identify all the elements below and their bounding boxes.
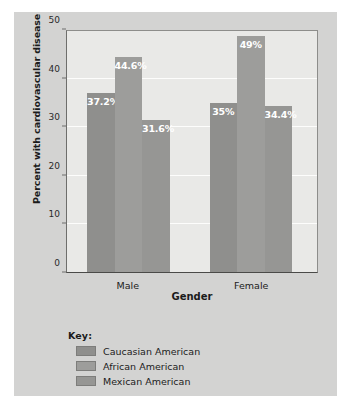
- y-tick-mark: [62, 272, 66, 273]
- bar-chart: Percent with cardiovascular disease Gend…: [14, 12, 337, 302]
- plot-outer: 37.2%44.6%31.6%35%49%34.4% 01020304050 M…: [66, 30, 318, 273]
- x-axis-title: Gender: [66, 291, 318, 302]
- y-tick-mark: [62, 223, 66, 224]
- bars-layer: 37.2%44.6%31.6%35%49%34.4%: [67, 31, 317, 272]
- y-tick-label: 10: [20, 209, 60, 219]
- legend-label: African American: [103, 361, 184, 372]
- legend-swatch: [76, 376, 96, 386]
- y-tick-label: 40: [20, 64, 60, 74]
- x-tick-label: Male: [116, 280, 139, 291]
- legend-entries: Caucasian AmericanAfrican AmericanMexica…: [68, 344, 288, 388]
- legend: Key: Caucasian AmericanAfrican AmericanM…: [68, 330, 288, 389]
- bar-value-label: 31.6%: [142, 123, 170, 134]
- bar: 35%: [210, 103, 238, 272]
- legend-label: Caucasian American: [103, 346, 200, 357]
- y-tick-mark: [62, 77, 66, 78]
- y-tick-mark: [62, 29, 66, 30]
- bar-value-label: 35%: [210, 106, 238, 117]
- x-tick-label: Female: [234, 280, 268, 291]
- legend-label: Mexican American: [103, 376, 190, 387]
- legend-title: Key:: [68, 330, 288, 341]
- y-tick-label: 20: [20, 161, 60, 171]
- legend-entry: Caucasian American: [68, 344, 288, 358]
- y-tick-label: 0: [20, 258, 60, 268]
- bar: 37.2%: [87, 93, 115, 272]
- legend-entry: African American: [68, 359, 288, 373]
- y-tick-label: 50: [20, 15, 60, 25]
- y-tick-label: 30: [20, 112, 60, 122]
- bar-value-label: 49%: [237, 39, 265, 50]
- bar-value-label: 44.6%: [115, 60, 143, 71]
- y-tick-mark: [62, 174, 66, 175]
- bar: 31.6%: [142, 120, 170, 272]
- bar-value-label: 34.4%: [265, 109, 293, 120]
- bar: 44.6%: [115, 57, 143, 272]
- legend-entry: Mexican American: [68, 374, 288, 388]
- legend-swatch: [76, 361, 96, 371]
- bar-value-label: 37.2%: [87, 96, 115, 107]
- y-tick-mark: [62, 126, 66, 127]
- bar: 34.4%: [265, 106, 293, 272]
- figure-background: Percent with cardiovascular disease Gend…: [14, 12, 337, 396]
- bar: 49%: [237, 36, 265, 272]
- plot-area: 37.2%44.6%31.6%35%49%34.4%: [66, 30, 318, 273]
- legend-swatch: [76, 346, 96, 356]
